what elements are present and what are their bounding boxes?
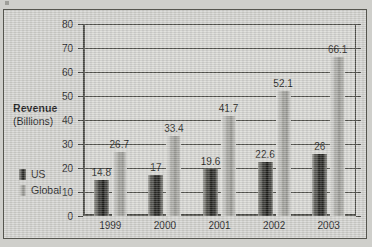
y-axis-title-line1: Revenue <box>13 102 79 115</box>
bar-value-us-2001: 19.6 <box>201 156 220 167</box>
bar-us-1999 <box>94 180 109 216</box>
bar-value-global-2001: 41.7 <box>219 103 238 114</box>
y-tick-mark <box>78 192 83 193</box>
bar-global-2003 <box>330 57 345 216</box>
bar-us-2003 <box>312 154 327 216</box>
y-tick-mark <box>356 144 361 145</box>
y-tick-label: 20 <box>47 163 73 174</box>
y-tick-mark <box>356 168 361 169</box>
y-tick-label: 50 <box>47 91 73 102</box>
y-tick-mark <box>78 96 83 97</box>
y-tick-mark <box>78 120 83 121</box>
bar-value-global-2002: 52.1 <box>273 78 292 89</box>
gridline <box>83 24 356 25</box>
gridline <box>83 120 356 121</box>
y-tick-mark <box>78 144 83 145</box>
legend-label-us: US <box>31 168 46 180</box>
x-tick-label-2001: 2001 <box>208 220 230 231</box>
y-tick-mark <box>356 120 361 121</box>
plot-area: 01020304050607080 14.826.71733.419.641.7… <box>83 24 356 216</box>
bar-us-2000 <box>148 175 163 216</box>
bar-global-2002 <box>276 91 291 216</box>
y-tick-label: 80 <box>47 19 73 30</box>
chart-figure: Revenue (Billions) US Global 01020304050… <box>3 9 367 239</box>
x-tick-label-1999: 1999 <box>99 220 121 231</box>
x-tick-label-2002: 2002 <box>263 220 285 231</box>
bar-value-us-2000: 17 <box>150 162 161 173</box>
gridline <box>83 72 356 73</box>
y-tick-label: 30 <box>47 139 73 150</box>
legend-swatch-us-icon <box>19 169 26 180</box>
y-tick-label: 0 <box>47 211 73 222</box>
y-tick-mark <box>356 216 361 217</box>
bar-global-2000 <box>166 136 181 216</box>
bar-value-us-2002: 22.6 <box>255 149 274 160</box>
x-tick-label-2000: 2000 <box>154 220 176 231</box>
y-tick-mark <box>78 216 83 217</box>
y-tick-mark <box>78 72 83 73</box>
scan-artifact-speck <box>5 1 9 5</box>
bar-value-global-2003: 66.1 <box>328 44 347 55</box>
y-tick-mark <box>356 24 361 25</box>
gridline <box>83 48 356 49</box>
y-tick-mark <box>356 48 361 49</box>
y-tick-label: 70 <box>47 43 73 54</box>
y-tick-mark <box>78 24 83 25</box>
y-tick-mark <box>78 168 83 169</box>
bar-value-global-2000: 33.4 <box>164 123 183 134</box>
legend-swatch-global-icon <box>19 185 26 196</box>
y-tick-label: 10 <box>47 187 73 198</box>
bar-value-us-1999: 14.8 <box>92 167 111 178</box>
bar-us-2002 <box>258 162 273 216</box>
bar-global-1999 <box>112 152 127 216</box>
gridline <box>83 96 356 97</box>
bar-global-2001 <box>221 116 236 216</box>
y-tick-label: 40 <box>47 115 73 126</box>
bar-value-us-2003: 26 <box>314 141 325 152</box>
y-tick-label: 60 <box>47 67 73 78</box>
y-tick-mark <box>356 192 361 193</box>
y-tick-mark <box>78 48 83 49</box>
bar-value-global-1999: 26.7 <box>110 139 129 150</box>
y-tick-mark <box>356 72 361 73</box>
y-tick-mark <box>356 96 361 97</box>
x-tick-label-2003: 2003 <box>318 220 340 231</box>
bar-us-2001 <box>203 169 218 216</box>
